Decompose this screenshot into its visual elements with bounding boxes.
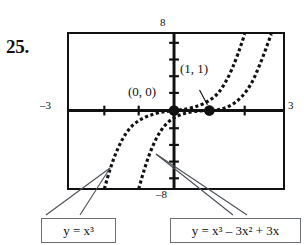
clipped-text-artifact: ˙ ˙ ˙ ˙ ˙ ˙ ˙ ˙: [4, 0, 130, 8]
ymin-label: –8: [156, 188, 167, 200]
caption-left-text: y = x³: [63, 223, 94, 239]
point-origin: [169, 105, 180, 116]
plot-canvas: [69, 34, 283, 189]
caption-box-right: y = x³ – 3x² + 3x: [170, 218, 301, 243]
graphing-window: [67, 32, 285, 190]
caption-box-left: y = x³: [41, 218, 116, 243]
xmin-label: –3: [40, 99, 51, 111]
point-one-one: [204, 105, 215, 116]
origin-annotation: (0, 0): [128, 84, 156, 100]
xmax-label: 3: [288, 99, 294, 111]
ymax-label: 8: [160, 16, 166, 28]
one-one-annotation: (1, 1): [180, 61, 208, 77]
leader-one-one: [200, 90, 208, 105]
problem-number: 25.: [6, 36, 29, 58]
caption-right-text: y = x³ – 3x² + 3x: [192, 223, 279, 239]
figure-root: ˙ ˙ ˙ ˙ ˙ ˙ ˙ ˙ 25.: [0, 0, 304, 245]
